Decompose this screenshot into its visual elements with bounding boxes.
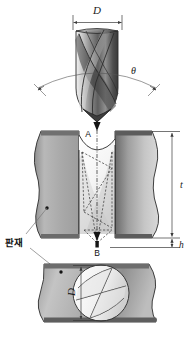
material-callout-dot-plan	[59, 270, 62, 273]
dimension-burr-height: h	[110, 239, 184, 250]
label-point-angle: θ	[131, 65, 136, 76]
exit-point-marker	[95, 241, 98, 248]
angle-tick-left	[34, 84, 46, 96]
plate-right-bottom-surface	[115, 234, 152, 238]
label-burr-height: h	[179, 240, 184, 250]
exit-arrow-head	[93, 232, 100, 241]
section-view: A B t h	[34, 122, 184, 258]
drilling-schematic-figure: D	[0, 0, 193, 340]
label-entry-point: A	[85, 129, 91, 139]
plate-right-block	[115, 131, 159, 238]
plate-left-top-surface	[41, 131, 79, 136]
plate-left-block	[34, 131, 79, 238]
angle-tick-right	[148, 84, 160, 96]
label-exit-point: B	[94, 248, 100, 258]
drill-bit-body	[75, 29, 118, 123]
label-workpiece-material: 판재	[5, 237, 23, 248]
plan-view: D	[38, 264, 157, 322]
label-diameter-bottom: D	[65, 288, 77, 297]
entry-arrow-head	[93, 122, 100, 131]
plate-right-top-surface	[115, 131, 152, 136]
label-diameter-top: D	[92, 4, 101, 16]
drill-bit-view: D	[34, 4, 160, 122]
dimension-diameter-top: D	[73, 4, 122, 30]
plate-left-bottom-surface	[41, 234, 79, 238]
entry-point-annotation: A	[85, 122, 100, 139]
label-thickness: t	[180, 179, 183, 190]
figure-canvas: D	[0, 0, 193, 340]
